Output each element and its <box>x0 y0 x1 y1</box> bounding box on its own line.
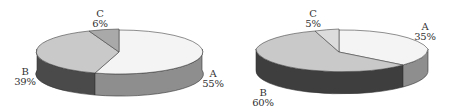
label-a: A55% <box>202 69 224 89</box>
label-a: A35% <box>414 22 436 42</box>
pie-chart-2: C5% B60% A35% <box>225 0 450 111</box>
pie-chart-1-graphic <box>0 0 225 111</box>
label-b: B60% <box>252 88 274 108</box>
label-c: C5% <box>305 9 321 29</box>
label-c: C6% <box>92 9 108 29</box>
pie-chart-1: C6% B39% A55% <box>0 0 225 111</box>
label-b: B39% <box>14 67 36 87</box>
